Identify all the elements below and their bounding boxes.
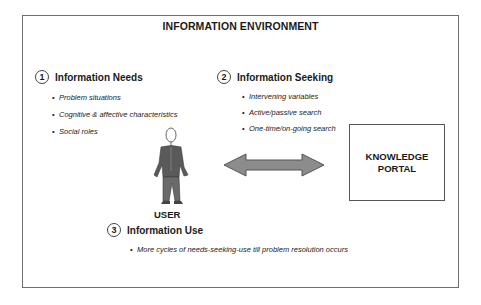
number-badge-3: 3 — [107, 223, 121, 237]
user-figure-icon — [146, 127, 196, 209]
diagram-title: INFORMATION ENVIRONMENT — [0, 20, 481, 32]
section-information-use: 3 Information Use — [107, 223, 203, 237]
list-item: Active/passive search — [242, 108, 336, 117]
section-label: Information Use — [127, 225, 203, 236]
list-item: One-time/on-going search — [242, 124, 336, 133]
list-item: Problem situations — [52, 93, 177, 102]
number-badge-2: 2 — [217, 70, 231, 84]
portal-label-line2: PORTAL — [366, 163, 429, 175]
list-item: Intervening variables — [242, 92, 336, 101]
user-label: USER — [154, 209, 180, 220]
knowledge-portal-box: KNOWLEDGE PORTAL — [349, 124, 445, 201]
number-badge-1: 1 — [35, 70, 49, 84]
seeking-bullet-list: Intervening variables Active/passive sea… — [242, 92, 336, 140]
portal-label-line1: KNOWLEDGE — [366, 151, 429, 163]
list-item: More cycles of needs-seeking-use till pr… — [130, 245, 348, 254]
list-item: Cognitive & affective characteristics — [52, 110, 177, 119]
section-information-seeking: 2 Information Seeking — [217, 70, 333, 84]
use-bullet-list: More cycles of needs-seeking-use till pr… — [130, 245, 348, 254]
bidirectional-arrow-icon — [222, 152, 326, 178]
section-label: Information Needs — [55, 72, 143, 83]
section-label: Information Seeking — [237, 72, 333, 83]
section-information-needs: 1 Information Needs — [35, 70, 143, 84]
